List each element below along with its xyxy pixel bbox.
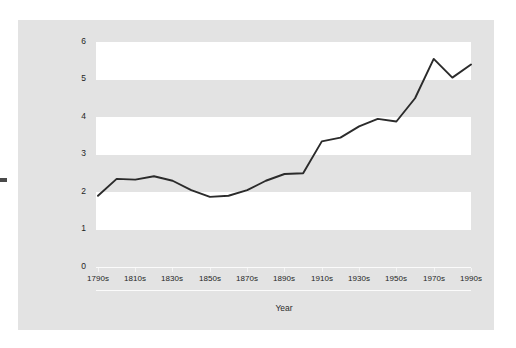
series-line-chart: [0, 0, 516, 348]
chart-figure: 6 5 4 3 2 1 0 1790s 1810s 1830s 1850s 18…: [0, 0, 516, 348]
plot-region: 6 5 4 3 2 1 0 1790s 1810s 1830s 1850s 18…: [0, 0, 516, 348]
x-axis-title: Year: [98, 303, 470, 313]
series-polyline: [98, 59, 471, 197]
